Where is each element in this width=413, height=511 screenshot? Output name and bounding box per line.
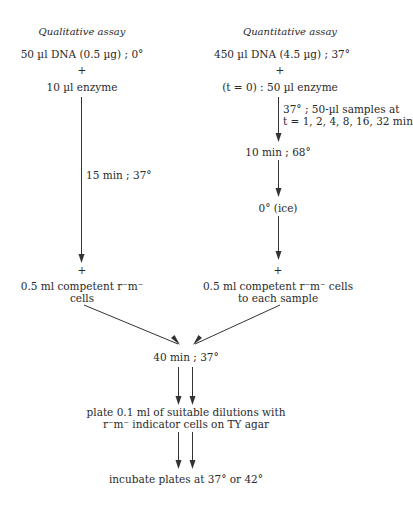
quantitative-heat-step: 10 min ; 68° <box>245 146 311 158</box>
quantitative-plus-2: + <box>274 264 283 276</box>
right-converge-arrow <box>195 305 280 344</box>
qualitative-plus-2: + <box>78 264 87 276</box>
left-converge-arrow <box>84 305 178 344</box>
quantitative-dna-step: 450 µl DNA (4.5 µg) ; 37° <box>214 48 350 60</box>
arrowhead-icon <box>176 460 182 469</box>
qualitative-enzyme-step: 10 µl enzyme <box>47 81 118 93</box>
arrowhead-icon <box>190 460 196 469</box>
qualitative-dna-step: 50 µl DNA (0.5 µg) ; 0° <box>21 48 144 60</box>
quantitative-sampling-label-line1: 37° ; 50-µl samples at <box>283 103 399 115</box>
quantitative-plus-1: + <box>276 64 285 76</box>
arrowhead-icon <box>79 254 85 263</box>
merged-final-incubation-step: incubate plates at 37° or 42° <box>109 473 263 485</box>
quantitative-sampling-label-line2: t = 1, 2, 4, 8, 16, 32 min <box>283 115 413 127</box>
arrowhead-icon <box>193 335 202 345</box>
merged-plating-step-line1: plate 0.1 ml of suitable dilutions with <box>87 406 286 418</box>
quantitative-ice-step: 0° (ice) <box>259 202 298 214</box>
quantitative-cells-step-line1: 0.5 ml competent r⁻m⁻ cells <box>203 280 353 292</box>
arrowhead-icon <box>176 396 182 405</box>
merged-plating-step-line2: r⁻m⁻ indicator cells on TY agar <box>103 418 269 430</box>
arrowhead-icon <box>276 251 282 260</box>
merged-incubation-step: 40 min ; 37° <box>153 351 219 363</box>
arrowhead-icon <box>276 188 282 197</box>
arrowhead-icon <box>190 396 196 405</box>
quantitative-cells-step-line2: to each sample <box>238 292 318 304</box>
qualitative-plus-1: + <box>78 64 87 76</box>
qualitative-cells-step-line2: cells <box>70 292 94 304</box>
qualitative-assay-heading: Qualitative assay <box>39 26 126 38</box>
qualitative-cells-step-line1: 0.5 ml competent r⁻m⁻ <box>21 280 144 292</box>
quantitative-enzyme-step: (t = 0) : 50 µl enzyme <box>222 81 338 93</box>
qualitative-incubation-label: 15 min ; 37° <box>86 169 152 181</box>
quantitative-assay-heading: Quantitative assay <box>243 26 337 38</box>
arrowhead-icon <box>276 133 282 142</box>
